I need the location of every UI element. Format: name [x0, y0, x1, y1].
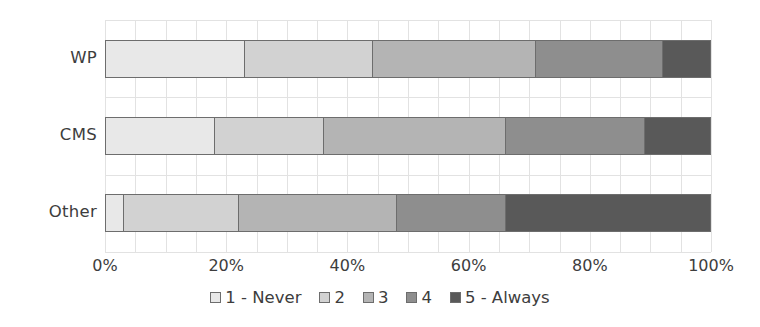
legend-item[interactable]: 1 - Never: [210, 288, 301, 307]
x-axis-tick-label: 80%: [572, 256, 608, 275]
bar-segment: [644, 117, 711, 155]
x-axis-tick-label: 20%: [208, 256, 244, 275]
gridline-horizontal: [105, 175, 711, 176]
bar-stack-cms: [105, 117, 711, 155]
legend-label: 3: [378, 288, 389, 307]
bar-segment: [323, 117, 505, 155]
bar-row: [105, 194, 711, 232]
y-axis-label-wp: WP: [5, 48, 97, 67]
legend-item[interactable]: 4: [406, 288, 432, 307]
bar-segment: [535, 40, 662, 78]
gridline-vertical: [711, 20, 712, 252]
y-axis-labels: WPCMSOther: [0, 20, 97, 252]
legend-swatch-icon: [450, 292, 461, 303]
bar-segment: [214, 117, 323, 155]
legend-label: 2: [334, 288, 345, 307]
bar-segment: [372, 40, 536, 78]
bar-segment: [662, 40, 710, 78]
legend-item[interactable]: 3: [363, 288, 389, 307]
stacked-bar-chart: WPCMSOther 0%20%40%60%80%100% 1 - Never2…: [0, 0, 760, 327]
bar-segment: [123, 194, 238, 232]
legend-swatch-icon: [363, 292, 374, 303]
bar-segment: [105, 117, 214, 155]
bar-segment: [238, 194, 396, 232]
x-axis-tick-label: 0%: [92, 256, 117, 275]
legend-swatch-icon: [406, 292, 417, 303]
x-axis-labels: 0%20%40%60%80%100%: [105, 256, 711, 280]
x-axis-tick-label: 60%: [451, 256, 487, 275]
bar-segment: [244, 40, 371, 78]
bar-segment: [505, 117, 644, 155]
bar-row: [105, 117, 711, 155]
legend-label: 1 - Never: [225, 288, 301, 307]
bar-segment: [396, 194, 505, 232]
legend-label: 4: [421, 288, 432, 307]
plot-area: [105, 20, 711, 252]
y-axis-label-cms: CMS: [5, 125, 97, 144]
legend-swatch-icon: [210, 292, 221, 303]
x-axis-tick-label: 40%: [330, 256, 366, 275]
gridline-horizontal: [105, 20, 711, 21]
chart-legend: 1 - Never2345 - Always: [0, 288, 760, 307]
gridline-horizontal: [105, 97, 711, 98]
gridline-horizontal: [105, 252, 711, 253]
legend-swatch-icon: [319, 292, 330, 303]
legend-label: 5 - Always: [465, 288, 550, 307]
bar-segment: [105, 194, 123, 232]
bar-row: [105, 40, 711, 78]
x-axis-tick-label: 100%: [688, 256, 734, 275]
legend-item[interactable]: 2: [319, 288, 345, 307]
bar-segment: [505, 194, 711, 232]
bar-stack-other: [105, 194, 711, 232]
bar-stack-wp: [105, 40, 711, 78]
bar-segment: [105, 40, 244, 78]
legend-item[interactable]: 5 - Always: [450, 288, 550, 307]
y-axis-label-other: Other: [5, 202, 97, 221]
